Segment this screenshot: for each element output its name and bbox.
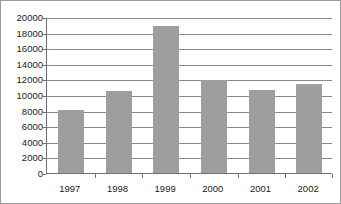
y-axis-tick-label: 14000 bbox=[3, 60, 43, 70]
x-axis: 199719981999200020012002 bbox=[46, 183, 332, 197]
x-axis-tick-label: 2002 bbox=[284, 183, 332, 194]
gridline bbox=[47, 18, 332, 19]
y-axis-tick-label: 20000 bbox=[3, 13, 43, 23]
x-axis-tick-mark bbox=[142, 174, 143, 178]
bar bbox=[58, 110, 84, 173]
y-axis-tick-label: 18000 bbox=[3, 29, 43, 39]
y-axis-tick-label: 6000 bbox=[3, 122, 43, 132]
x-axis-tick-label: 1999 bbox=[141, 183, 189, 194]
x-axis-tick-label: 2001 bbox=[237, 183, 285, 194]
gridline bbox=[47, 143, 332, 144]
gridline bbox=[47, 158, 332, 159]
y-axis-tick-label: 2000 bbox=[3, 153, 43, 163]
y-axis-tick-label: 0 bbox=[3, 169, 43, 179]
x-axis-tick-mark bbox=[238, 174, 239, 178]
bar bbox=[201, 80, 227, 173]
x-axis-tick-mark bbox=[332, 174, 333, 178]
y-axis: 0200040006000800010000120001400016000180… bbox=[1, 1, 43, 204]
x-axis-tick-label: 1997 bbox=[46, 183, 94, 194]
x-axis-tick-mark bbox=[285, 174, 286, 178]
y-axis-tick-label: 8000 bbox=[3, 107, 43, 117]
bar bbox=[153, 26, 179, 173]
bar bbox=[296, 84, 322, 173]
gridline bbox=[47, 65, 332, 66]
bar bbox=[249, 90, 275, 173]
bar-chart: 0200040006000800010000120001400016000180… bbox=[0, 0, 341, 204]
gridline bbox=[47, 96, 332, 97]
y-axis-tick-label: 12000 bbox=[3, 75, 43, 85]
x-axis-tick-label: 2000 bbox=[189, 183, 237, 194]
gridline bbox=[47, 49, 332, 50]
y-axis-tick-label: 16000 bbox=[3, 44, 43, 54]
x-axis-tick-mark bbox=[95, 174, 96, 178]
x-axis-tick-label: 1998 bbox=[94, 183, 142, 194]
x-axis-tick-mark bbox=[190, 174, 191, 178]
y-axis-tick-label: 4000 bbox=[3, 138, 43, 148]
y-axis-tick-label: 10000 bbox=[3, 91, 43, 101]
gridline bbox=[47, 80, 332, 81]
plot-area bbox=[46, 18, 332, 174]
gridline bbox=[47, 34, 332, 35]
gridline bbox=[47, 127, 332, 128]
y-axis-tick-mark bbox=[43, 174, 46, 175]
bar bbox=[106, 91, 132, 173]
gridline bbox=[47, 112, 332, 113]
